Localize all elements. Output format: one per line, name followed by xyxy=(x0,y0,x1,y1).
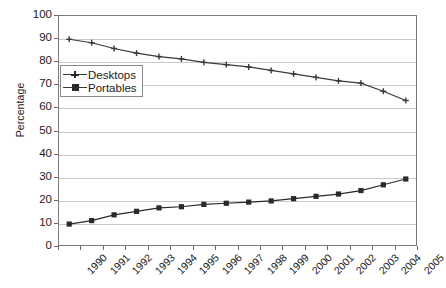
data-point-marker xyxy=(158,54,159,60)
x-tick-mark xyxy=(148,246,149,250)
x-tick-mark xyxy=(193,246,194,250)
series-line-portables xyxy=(69,179,406,224)
y-tick-label: 60 xyxy=(8,102,52,114)
y-tick-label: 70 xyxy=(8,79,52,91)
data-point-marker xyxy=(111,212,116,217)
data-point-marker xyxy=(291,196,296,201)
legend-marker-square-icon xyxy=(63,82,87,94)
x-tick-label: 1994 xyxy=(175,252,199,276)
x-tick-label: 1997 xyxy=(242,252,266,276)
data-point-marker xyxy=(338,78,339,84)
data-point-marker xyxy=(269,198,274,203)
x-tick-label: 1990 xyxy=(85,252,109,276)
x-tick-mark xyxy=(238,246,239,250)
x-tick-label: 1992 xyxy=(130,252,154,276)
x-tick-label: 2003 xyxy=(377,252,401,276)
x-tick-label: 1999 xyxy=(287,252,311,276)
data-point-marker xyxy=(405,97,406,103)
x-tick-label: 2000 xyxy=(309,252,333,276)
x-tick-label: 1998 xyxy=(265,252,289,276)
y-tick-mark xyxy=(54,177,58,178)
y-tick-mark xyxy=(54,200,58,201)
data-point-marker xyxy=(179,204,184,209)
y-tick-mark xyxy=(54,84,58,85)
x-tick-label: 1995 xyxy=(197,252,221,276)
y-tick-mark xyxy=(54,131,58,132)
y-tick-mark xyxy=(54,154,58,155)
data-point-marker xyxy=(246,200,251,205)
y-tick-label: 10 xyxy=(8,217,52,229)
x-tick-label: 1991 xyxy=(107,252,131,276)
y-tick-label: 40 xyxy=(8,148,52,160)
x-tick-mark xyxy=(103,246,104,250)
y-tick-label: 90 xyxy=(8,32,52,44)
x-tick-mark xyxy=(305,246,306,250)
data-point-marker xyxy=(113,46,114,52)
series-overlay xyxy=(58,15,417,246)
x-tick-mark xyxy=(260,246,261,250)
y-tick-mark xyxy=(54,38,58,39)
x-tick-mark xyxy=(417,246,418,250)
x-tick-label: 1996 xyxy=(220,252,244,276)
x-tick-mark xyxy=(350,246,351,250)
chart-legend: Desktops Portables xyxy=(60,65,143,97)
x-tick-label: 2001 xyxy=(332,252,356,276)
legend-label-desktops: Desktops xyxy=(87,69,136,81)
legend-item-portables: Portables xyxy=(63,81,137,94)
data-point-marker xyxy=(156,205,161,210)
data-point-marker xyxy=(360,80,361,86)
data-point-marker xyxy=(383,88,384,94)
data-point-marker xyxy=(293,71,294,77)
x-tick-mark xyxy=(58,246,59,250)
x-tick-label: 2002 xyxy=(354,252,378,276)
data-point-marker xyxy=(336,191,341,196)
legend-item-desktops: Desktops xyxy=(63,68,137,81)
y-tick-label: 50 xyxy=(8,125,52,137)
data-point-marker xyxy=(358,188,363,193)
data-point-marker xyxy=(67,221,72,226)
x-tick-mark xyxy=(80,246,81,250)
data-point-marker xyxy=(270,67,271,73)
x-tick-label: 2005 xyxy=(422,252,446,276)
data-point-marker xyxy=(226,62,227,68)
x-tick-label: 2004 xyxy=(399,252,423,276)
data-point-marker xyxy=(201,202,206,207)
x-tick-mark xyxy=(372,246,373,250)
data-point-marker xyxy=(91,40,92,46)
x-tick-mark xyxy=(170,246,171,250)
y-tick-label: 0 xyxy=(8,240,52,252)
data-point-marker xyxy=(136,50,137,56)
x-tick-mark xyxy=(215,246,216,250)
data-point-marker xyxy=(381,182,386,187)
y-tick-label: 20 xyxy=(8,194,52,206)
y-tick-label: 100 xyxy=(8,9,52,21)
data-point-marker xyxy=(89,218,94,223)
legend-marker-plus-icon xyxy=(63,69,87,81)
data-point-marker xyxy=(403,176,408,181)
x-tick-label: 1993 xyxy=(152,252,176,276)
y-tick-label: 80 xyxy=(8,55,52,67)
data-point-marker xyxy=(224,201,229,206)
series-markers-portables xyxy=(67,176,409,226)
y-tick-mark xyxy=(54,223,58,224)
data-point-marker xyxy=(313,194,318,199)
x-tick-mark xyxy=(395,246,396,250)
data-point-marker xyxy=(203,59,204,65)
data-point-marker xyxy=(181,56,182,62)
y-axis-tick-labels: 0102030405060708090100 xyxy=(0,0,52,288)
x-tick-mark xyxy=(282,246,283,250)
data-point-marker xyxy=(248,64,249,70)
legend-label-portables: Portables xyxy=(87,82,137,94)
x-tick-mark xyxy=(327,246,328,250)
y-tick-mark xyxy=(54,61,58,62)
data-point-marker xyxy=(315,74,316,80)
y-tick-mark xyxy=(54,107,58,108)
y-tick-mark xyxy=(54,15,58,16)
data-point-marker xyxy=(134,209,139,214)
y-tick-label: 30 xyxy=(8,171,52,183)
x-tick-mark xyxy=(125,246,126,250)
data-point-marker xyxy=(69,36,70,42)
